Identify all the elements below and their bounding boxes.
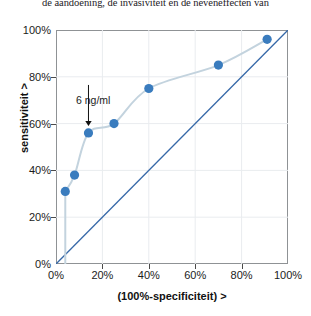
y-axis-tick-mark [51,217,56,218]
body-paragraph-text: de aandoening, de invasiviteit en de nev… [0,0,311,11]
y-axis-tick-mark [51,170,56,171]
x-axis-title: (100%-specificiteit) > [56,290,288,302]
roc-curve-line [65,39,267,264]
x-axis-tick-label: 60% [171,269,219,281]
roc-data-point [214,61,223,70]
x-axis-tick-mark [102,264,103,269]
x-axis-tick-label: 100% [264,269,311,281]
roc-data-point [144,84,153,93]
roc-data-point [84,128,93,137]
x-axis-tick-label: 0% [32,269,80,281]
roc-chart-figure: 0%20%40%60%80%100% 0%20%40%60%80%100% se… [0,16,311,316]
x-axis-tick-mark [242,264,243,269]
y-axis-title: sensitiviteit > [18,38,30,198]
y-axis-tick-label: 20% [5,212,51,223]
x-axis-tick-label: 80% [218,269,266,281]
plot-canvas [56,30,288,264]
annotation-label: 6 ng/ml [76,94,110,106]
y-axis-tick-label: 0% [5,259,51,270]
roc-data-point [70,170,79,179]
x-axis-tick-label: 20% [78,269,126,281]
x-axis-tick-label: 40% [125,269,173,281]
y-axis-tick-mark [51,77,56,78]
y-axis-tick-label: 100% [5,25,51,36]
roc-data-point [109,119,118,128]
x-axis-tick-mark [149,264,150,269]
y-axis-tick-mark [51,124,56,125]
x-axis-tick-mark [195,264,196,269]
roc-data-point [61,187,70,196]
roc-data-point [263,35,272,44]
roc-data-points [61,35,272,196]
reference-diagonal-line [56,30,288,264]
